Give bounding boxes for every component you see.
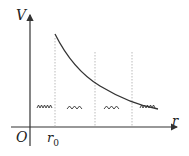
spring-stretched-1	[67, 106, 82, 109]
r0-label: r0	[47, 130, 59, 148]
origin-label: O	[16, 129, 27, 145]
x-axis-label: r	[172, 113, 178, 128]
r0-subscript: 0	[53, 138, 59, 148]
potential-curve	[55, 34, 158, 109]
y-axis-label: V	[16, 7, 26, 23]
spring-compressed-1	[37, 105, 52, 108]
diagram-canvas	[0, 0, 189, 156]
spring-stretched-2	[104, 106, 119, 109]
